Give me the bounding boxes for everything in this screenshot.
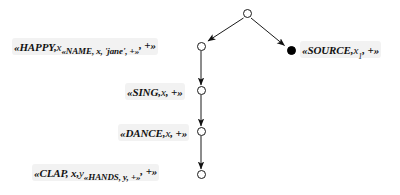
label-sing-tail: , +»	[166, 86, 183, 98]
label-dance-tail: , +»	[170, 127, 187, 139]
label-source: «SOURCE,x1, +»	[300, 41, 381, 58]
label-source-head: «SOURCE,	[302, 44, 353, 56]
label-clap: «CLAP, x,y«HANDS, y, +», +»	[32, 164, 159, 181]
node-sing[interactable]	[197, 86, 206, 95]
label-clap-nested: «HANDS, y, +»	[84, 172, 141, 182]
label-dance-head: «DANCE,	[120, 127, 165, 139]
edge-root-to-source	[251, 18, 285, 46]
node-happy[interactable]	[197, 42, 206, 51]
label-source-subscript: 1	[358, 52, 362, 61]
label-dance: «DANCE,x, +»	[118, 124, 189, 141]
label-clap-tail: , +»	[140, 165, 157, 177]
label-happy-tail: , +»	[139, 39, 156, 51]
label-source-tail: , +»	[362, 44, 379, 56]
label-happy-nested: «NAME, x, 'jane', +»	[61, 46, 139, 56]
node-source[interactable]	[287, 46, 296, 55]
node-dance[interactable]	[197, 127, 206, 136]
node-clap[interactable]	[197, 170, 206, 179]
label-sing-head: «SING,	[127, 86, 161, 98]
label-clap-head: «CLAP, x,	[34, 167, 79, 179]
diagram-canvas: «HAPPY,x«NAME, x, 'jane', +», +» «SOURCE…	[0, 0, 400, 195]
edge-root-to-happy	[208, 18, 244, 41]
node-root[interactable]	[243, 9, 252, 18]
label-happy-head: «HAPPY,	[14, 41, 57, 53]
label-sing: «SING,x, +»	[125, 83, 185, 100]
label-happy: «HAPPY,x«NAME, x, 'jane', +», +»	[12, 38, 158, 55]
